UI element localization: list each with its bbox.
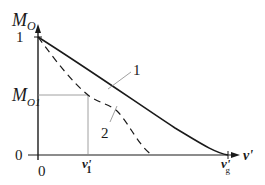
curve-2-label: 2: [101, 125, 109, 141]
y-tick-1: 1: [16, 29, 24, 45]
diagram-canvas: MO 1 0 MO1 0 ν'1 ν'g ν' 1 2: [0, 0, 265, 185]
x-tick-0: 0: [38, 163, 46, 179]
m-o1-label: MO1: [11, 85, 40, 108]
y-axis: [34, 24, 42, 160]
curve-2-leader: [110, 106, 117, 122]
y-axis-label: MO: [11, 10, 36, 33]
y-tick-0: 0: [15, 147, 23, 163]
x-tick-v1: ν'1: [82, 156, 92, 175]
curve-1-leader: [108, 72, 131, 89]
curve-1: [38, 37, 228, 155]
curve-2: [38, 37, 152, 155]
x-tick-vg: ν'g: [221, 156, 231, 175]
guide-lines: [38, 95, 88, 155]
x-axis-label: ν': [243, 148, 253, 163]
x-axis: [28, 151, 240, 159]
x-axis-arrow-icon: [231, 152, 240, 158]
y-axis-arrow-icon: [35, 24, 41, 33]
curve-1-label: 1: [133, 62, 141, 78]
